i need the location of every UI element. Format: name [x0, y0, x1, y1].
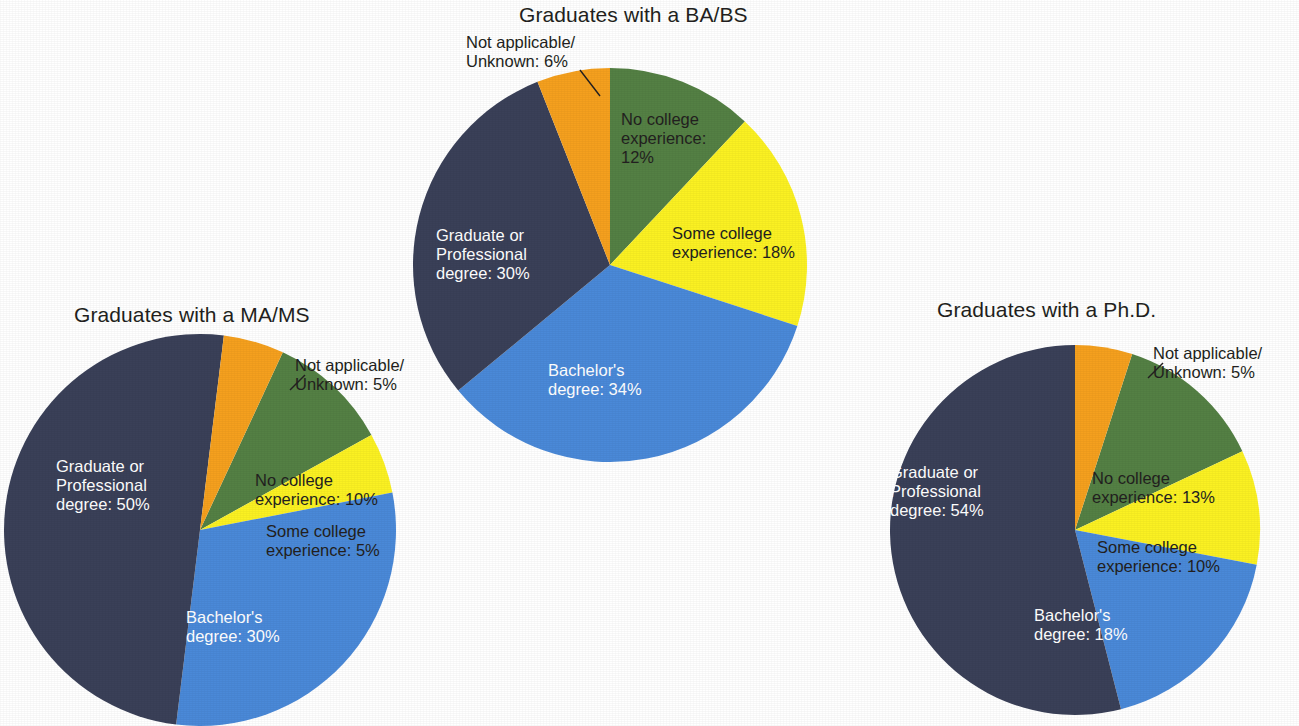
pie-label-babs-not-applicable: Not applicable/ Unknown: 6%: [466, 33, 575, 72]
pie-label-mams-graduate: Graduate or Professional degree: 50%: [56, 457, 150, 514]
pie-label-phd-bachelors: Bachelor's degree: 18%: [1034, 606, 1128, 644]
pie-label-mams-no-college: No college experience: 10%: [255, 471, 378, 509]
charts-canvas: Graduates with a BA/BS Not applicable/ U…: [0, 0, 1299, 726]
pie-label-phd-graduate: Graduate or Professional degree: 54%: [890, 463, 984, 520]
leader-line-mams-not-applicable: [288, 372, 314, 398]
pie-label-babs-no-college: No college experience: 12%: [621, 110, 706, 167]
pie-label-babs-some-college: Some college experience: 18%: [672, 224, 795, 262]
pie-label-phd-some-college: Some college experience: 10%: [1097, 538, 1220, 576]
leader-line-babs-not-applicable: [576, 66, 616, 106]
chart-title-mams: Graduates with a MA/MS: [74, 303, 310, 327]
chart-title-babs: Graduates with a BA/BS: [519, 3, 748, 27]
pie-label-mams-some-college: Some college experience: 5%: [266, 522, 380, 560]
pie-label-babs-bachelors: Bachelor's degree: 34%: [548, 361, 642, 399]
pie-chart-phd: [889, 344, 1261, 716]
pie-label-mams-bachelors: Bachelor's degree: 30%: [186, 608, 280, 646]
chart-title-phd: Graduates with a Ph.D.: [937, 298, 1156, 322]
leader-line-phd-not-applicable: [1146, 360, 1172, 386]
pie-label-babs-graduate: Graduate or Professional degree: 30%: [436, 226, 530, 283]
pie-label-phd-no-college: No college experience: 13%: [1092, 469, 1215, 507]
